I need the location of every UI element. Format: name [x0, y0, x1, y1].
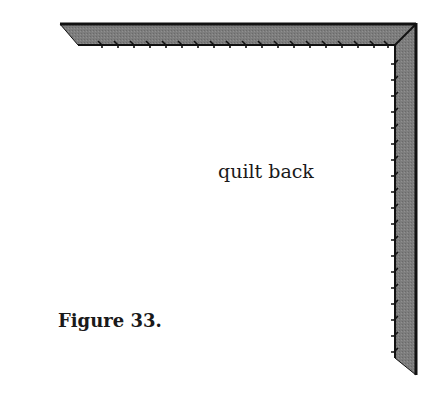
quilt-back-label: quilt back: [218, 160, 314, 182]
figure-caption: Figure 33.: [58, 310, 162, 331]
binding-corner-diagram: [0, 0, 432, 394]
top-binding-strip: [60, 24, 416, 45]
figure-canvas: quilt back Figure 33.: [0, 0, 432, 394]
